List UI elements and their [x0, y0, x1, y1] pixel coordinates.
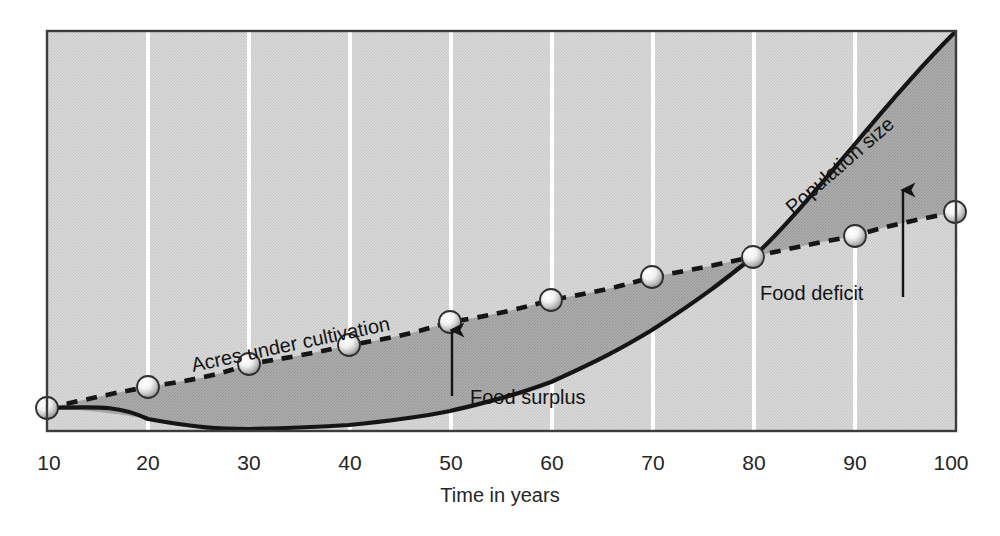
chart-figure: Acres under cultivation Population size …	[0, 0, 1000, 536]
data-point-marker	[742, 246, 764, 268]
x-tick-label: 90	[843, 451, 866, 474]
x-tick-label: 40	[338, 451, 361, 474]
x-tick-label: 100	[933, 451, 968, 474]
data-point-marker	[540, 289, 562, 311]
food-surplus-label: Food surplus	[470, 386, 586, 408]
data-point-marker	[137, 376, 159, 398]
chart-svg: Acres under cultivation Population size …	[0, 0, 1000, 536]
x-tick-label: 20	[136, 451, 159, 474]
x-tick-label: 80	[742, 451, 765, 474]
data-point-marker	[439, 311, 461, 333]
x-axis-tick-labels: 10 20 30 40 50 60 70 80 90 100	[37, 451, 968, 474]
plot-area: Acres under cultivation Population size	[36, 31, 966, 431]
data-point-marker	[641, 266, 663, 288]
x-tick-label: 30	[237, 451, 260, 474]
x-tick-label: 70	[641, 451, 664, 474]
data-point-marker	[844, 225, 866, 247]
x-tick-label: 10	[37, 451, 60, 474]
food-deficit-label: Food deficit	[760, 282, 864, 304]
x-axis-title: Time in years	[440, 484, 559, 506]
x-tick-label: 50	[439, 451, 462, 474]
x-tick-label: 60	[540, 451, 563, 474]
